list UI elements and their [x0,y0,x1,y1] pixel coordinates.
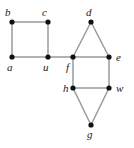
vertex-label-f: f [66,62,69,73]
vertex-label-u: u [43,62,49,73]
graph-vertex-f [70,54,75,59]
graph-vertex-a [9,54,14,59]
vertex-label-w: w [116,83,123,94]
graph-vertex-c [45,19,50,24]
vertices-group [9,19,111,127]
graph-vertex-g [88,122,93,127]
edges-group [12,22,109,125]
graph-vertex-h [70,85,75,90]
graph-vertex-e [106,54,111,59]
vertex-label-d: d [86,7,92,18]
vertex-label-a: a [7,62,13,73]
graph-edge-f-d [73,22,91,57]
graph-edge-g-w [91,88,109,125]
graph-edge-h-g [73,88,91,125]
vertex-label-h: h [63,83,69,94]
graph-vertex-d [88,19,93,24]
vertex-label-b: b [5,7,11,18]
vertex-label-g: g [87,129,93,140]
graph-vertex-w [106,85,111,90]
graph-canvas [0,0,134,148]
vertex-label-e: e [116,52,121,63]
graph-vertex-u [45,54,50,59]
vertex-label-c: c [42,7,47,18]
graph-vertex-b [9,19,14,24]
graph-edge-d-e [91,22,109,57]
graph-figure: abcufdehwg [0,0,134,148]
